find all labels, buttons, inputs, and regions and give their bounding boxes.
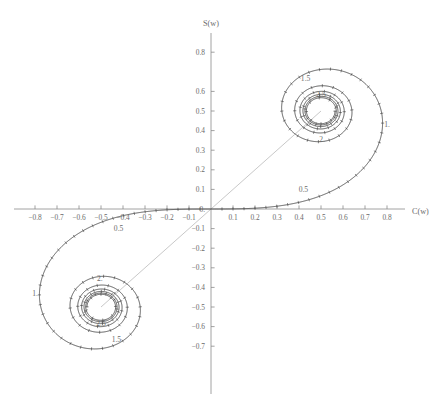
x-tick-label: −0.5 bbox=[94, 213, 108, 222]
x-axis-label: C(w) bbox=[412, 207, 429, 216]
y-axis-label: S(w) bbox=[203, 19, 219, 28]
x-tick-label: 0.3 bbox=[272, 213, 282, 222]
curve-parameter-label: 1.5 bbox=[112, 335, 122, 344]
y-tick-label: 0. bbox=[199, 205, 205, 214]
x-tick-label: 0.6 bbox=[338, 213, 348, 222]
curve-parameter-label: 1. bbox=[384, 120, 390, 129]
x-tick-label: −0.7 bbox=[50, 213, 64, 222]
curve-parameter-label: 0.5 bbox=[114, 224, 124, 233]
x-tick-label: −0.6 bbox=[72, 213, 86, 222]
y-tick-label: 0.8 bbox=[196, 48, 206, 57]
curve-parameter-label: 0.5 bbox=[299, 185, 309, 194]
y-tick-label: 0.4 bbox=[196, 126, 206, 135]
x-tick-label: −0.8 bbox=[28, 213, 42, 222]
x-tick-label: 0.2 bbox=[250, 213, 260, 222]
y-tick-label: −0.3 bbox=[192, 263, 206, 272]
x-tick-label: 0.5 bbox=[316, 213, 326, 222]
y-tick-label: 0.5 bbox=[196, 107, 206, 116]
x-tick-label: 0.1 bbox=[228, 213, 238, 222]
curve-parameter-label: 2.5 bbox=[316, 90, 326, 99]
y-tick-label: −0.2 bbox=[192, 244, 206, 253]
curve-parameter-label: 2. bbox=[97, 274, 103, 283]
curve-parameter-label: 2. bbox=[319, 135, 325, 144]
y-tick-label: 0.2 bbox=[196, 165, 206, 174]
curve-parameter-label: 2.5 bbox=[96, 319, 106, 328]
y-tick-label: −0.1 bbox=[192, 224, 206, 233]
x-tick-label: −0.1 bbox=[182, 213, 196, 222]
y-tick-label: −0.5 bbox=[192, 303, 206, 312]
x-tick-label: 0.8 bbox=[382, 213, 392, 222]
x-tick-label: −0.3 bbox=[138, 213, 152, 222]
x-tick-label: 0.4 bbox=[294, 213, 304, 222]
x-tick-label: −0.4 bbox=[116, 213, 130, 222]
y-tick-label: 0.1 bbox=[196, 185, 206, 194]
curve-parameter-label: 1. bbox=[32, 289, 38, 298]
x-tick-label: −0.2 bbox=[160, 213, 174, 222]
cornu-spiral-figure: −0.8−0.7−0.6−0.5−0.4−0.3−0.2−0.10.10.20.… bbox=[0, 0, 442, 410]
y-tick-label: −0.7 bbox=[192, 342, 206, 351]
y-tick-label: 0.3 bbox=[196, 146, 206, 155]
curve-parameter-label: 1.5 bbox=[301, 74, 311, 83]
x-tick-label: 0.7 bbox=[360, 213, 370, 222]
y-tick-label: −0.4 bbox=[192, 283, 206, 292]
y-tick-label: 0.6 bbox=[196, 87, 206, 96]
y-tick-label: −0.6 bbox=[192, 322, 206, 331]
plot-canvas: −0.8−0.7−0.6−0.5−0.4−0.3−0.2−0.10.10.20.… bbox=[0, 0, 442, 410]
